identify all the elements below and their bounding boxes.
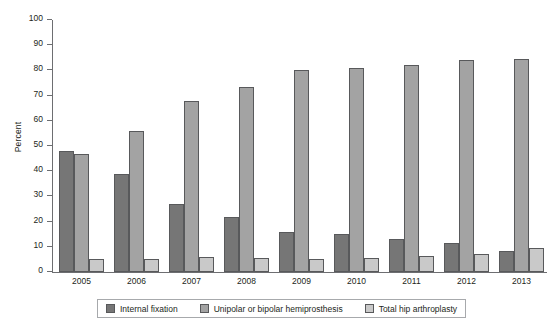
bar-group-2012 xyxy=(444,20,489,272)
x-axis-label-2007: 2007 xyxy=(162,276,222,286)
y-tick-label-90: 90 xyxy=(34,38,43,48)
bar-2011-series-1 xyxy=(404,65,419,272)
x-axis-label-2010: 2010 xyxy=(327,276,387,286)
bar-2013-series-1 xyxy=(514,59,529,272)
bar-2009-series-0 xyxy=(279,232,294,272)
y-tick-80: 80 xyxy=(47,69,52,70)
legend-item-internal-fixation: Internal fixation xyxy=(106,304,178,314)
y-tick-20: 20 xyxy=(47,221,52,222)
y-tick-60: 60 xyxy=(47,120,52,121)
x-axis-label-2008: 2008 xyxy=(217,276,277,286)
bar-2011-series-0 xyxy=(389,239,404,272)
bar-2008-series-1 xyxy=(239,87,254,272)
plot-area: 0102030405060708090100 20052006200720082… xyxy=(52,20,547,272)
bar-chart: Percent 0102030405060708090100 200520062… xyxy=(0,0,557,334)
y-tick-label-40: 40 xyxy=(34,164,43,174)
bar-2005-series-1 xyxy=(74,154,89,272)
legend-label-series-0: Internal fixation xyxy=(120,304,178,314)
bar-2012-series-0 xyxy=(444,243,459,272)
legend-swatch-icon-series-1 xyxy=(200,304,209,313)
y-tick-0: 0 xyxy=(47,271,52,272)
x-axis-label-2011: 2011 xyxy=(382,276,442,286)
legend-item-total-hip-arthroplasty: Total hip arthroplasty xyxy=(365,304,457,314)
x-axis-label-2012: 2012 xyxy=(437,276,497,286)
x-axis-line xyxy=(52,272,547,273)
bar-2007-series-1 xyxy=(184,101,199,272)
bar-2006-series-2 xyxy=(144,259,159,272)
bar-group-2006 xyxy=(114,20,159,272)
chart-legend: Internal fixation Unipolar or bipolar he… xyxy=(97,299,466,318)
x-axis-label-2013: 2013 xyxy=(492,276,552,286)
y-tick-label-70: 70 xyxy=(34,89,43,99)
bar-2007-series-2 xyxy=(199,257,214,272)
y-tick-40: 40 xyxy=(47,170,52,171)
bar-group-2008 xyxy=(224,20,269,272)
y-tick-label-60: 60 xyxy=(34,114,43,124)
legend-label-series-1: Unipolar or bipolar hemiprosthesis xyxy=(214,304,343,314)
bar-2013-series-2 xyxy=(529,248,544,272)
x-axis-label-2009: 2009 xyxy=(272,276,332,286)
bar-group-2013 xyxy=(499,20,544,272)
y-tick-10: 10 xyxy=(47,246,52,247)
legend-item-hemiprosthesis: Unipolar or bipolar hemiprosthesis xyxy=(200,304,343,314)
bar-2012-series-2 xyxy=(474,254,489,272)
bar-2011-series-2 xyxy=(419,256,434,272)
bar-2008-series-0 xyxy=(224,217,239,272)
bar-2010-series-1 xyxy=(349,68,364,272)
legend-swatch-icon-series-2 xyxy=(365,304,374,313)
bar-2013-series-0 xyxy=(499,251,514,272)
y-tick-90: 90 xyxy=(47,44,52,45)
legend-label-series-2: Total hip arthroplasty xyxy=(379,304,457,314)
bar-group-2009 xyxy=(279,20,324,272)
bar-2009-series-1 xyxy=(294,70,309,272)
bar-group-2007 xyxy=(169,20,214,272)
bar-2012-series-1 xyxy=(459,60,474,272)
y-tick-label-100: 100 xyxy=(29,13,43,23)
bar-2006-series-1 xyxy=(129,131,144,272)
y-tick-70: 70 xyxy=(47,95,52,96)
y-tick-50: 50 xyxy=(47,145,52,146)
bar-2006-series-0 xyxy=(114,174,129,272)
bar-group-2005 xyxy=(59,20,104,272)
bar-group-2010 xyxy=(334,20,379,272)
y-axis-title: Percent xyxy=(13,97,23,177)
y-tick-label-80: 80 xyxy=(34,63,43,73)
bar-2005-series-0 xyxy=(59,151,74,272)
y-tick-label-30: 30 xyxy=(34,189,43,199)
y-tick-label-20: 20 xyxy=(34,215,43,225)
y-tick-label-10: 10 xyxy=(34,240,43,250)
bar-2008-series-2 xyxy=(254,258,269,272)
y-tick-label-0: 0 xyxy=(38,265,43,275)
x-axis-label-2005: 2005 xyxy=(52,276,112,286)
bar-group-2011 xyxy=(389,20,434,272)
y-tick-30: 30 xyxy=(47,195,52,196)
y-tick-label-50: 50 xyxy=(34,139,43,149)
legend-swatch-icon-series-0 xyxy=(106,304,115,313)
y-tick-100: 100 xyxy=(47,19,52,20)
bar-2009-series-2 xyxy=(309,259,324,272)
bar-2010-series-0 xyxy=(334,234,349,272)
bar-2007-series-0 xyxy=(169,204,184,272)
x-axis-label-2006: 2006 xyxy=(107,276,167,286)
y-axis-line xyxy=(52,20,53,272)
bar-2010-series-2 xyxy=(364,258,379,272)
bar-2005-series-2 xyxy=(89,259,104,272)
